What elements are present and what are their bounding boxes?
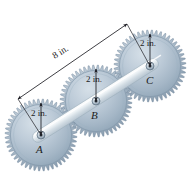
gear-diagram-figure: 2 in. 2 in. 2 in. 8 in. A B C xyxy=(0,0,193,176)
radius-label-a: 2 in. xyxy=(31,109,47,118)
radius-label-c: 2 in. xyxy=(140,39,156,48)
gear-label-a: A xyxy=(36,144,43,155)
gear-assembly-drawing xyxy=(0,0,193,176)
gear-label-c: C xyxy=(146,75,153,86)
gear-label-b: B xyxy=(91,110,98,121)
radius-label-b: 2 in. xyxy=(86,75,102,84)
